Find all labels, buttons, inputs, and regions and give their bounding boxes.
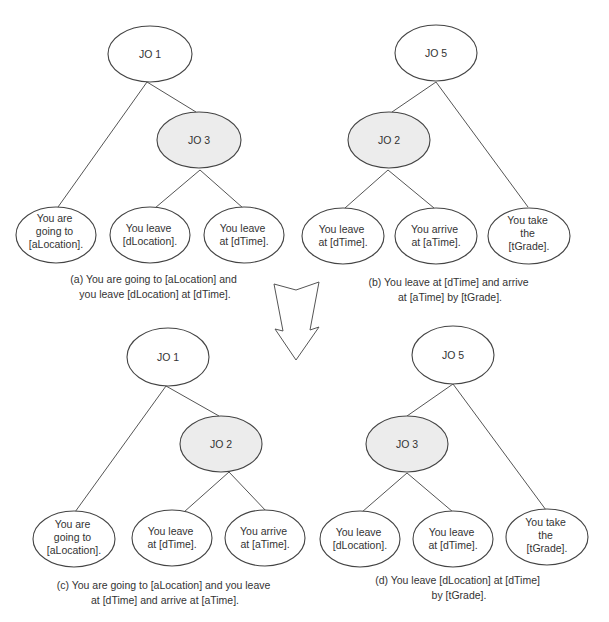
caption-a: (a) You are going to [aLocation] and you… xyxy=(70,273,239,300)
down-arrow-icon xyxy=(274,282,319,360)
node-internal-c-label: JO 2 xyxy=(210,438,232,450)
tree-d: JO 5 JO 3 You leave [dLocation]. You lea… xyxy=(320,326,588,601)
node-root-d-label: JO 5 xyxy=(442,349,464,361)
diagram-canvas: JO 1 JO 3 You are going to [aLocation]. … xyxy=(0,0,609,622)
node-internal-d-label: JO 3 xyxy=(396,438,418,450)
leaf-d-2-text: You leave at [dTime]. xyxy=(428,526,477,551)
leaf-c-3-text: You arrive at [aTime]. xyxy=(240,525,290,550)
leaf-c-1-text: You are going to [aLocation]. xyxy=(47,518,101,556)
node-root-a-label: JO 1 xyxy=(139,48,161,60)
leaf-d-1-text: You leave [dLocation]. xyxy=(333,526,387,551)
caption-d: (d) You leave [dLocation] at [dTime] by … xyxy=(375,574,543,601)
node-root-c-label: JO 1 xyxy=(157,351,179,363)
node-internal-a-label: JO 3 xyxy=(188,134,210,146)
caption-b: (b) You leave at [dTime] and arrive at [… xyxy=(368,276,531,303)
node-internal-b-label: JO 2 xyxy=(378,134,400,146)
leaf-b-1-text: You leave at [dTime]. xyxy=(318,223,367,248)
leaf-a-3-text: You leave at [dTime]. xyxy=(219,222,268,247)
tree-c: JO 1 JO 2 You are going to [aLocation]. … xyxy=(33,328,305,606)
leaf-a-1-text: You are going to [aLocation]. xyxy=(29,212,83,250)
tree-a: JO 1 JO 3 You are going to [aLocation]. … xyxy=(16,26,284,300)
node-root-b-label: JO 5 xyxy=(425,47,447,59)
leaf-a-2-text: You leave [dLocation]. xyxy=(123,222,177,247)
tree-b: JO 5 JO 2 You leave at [dTime]. You arri… xyxy=(302,25,570,303)
caption-c: (c) You are going to [aLocation] and you… xyxy=(57,579,274,606)
leaf-b-2-text: You arrive at [aTime]. xyxy=(411,223,461,248)
leaf-c-2-text: You leave at [dTime]. xyxy=(147,525,196,550)
